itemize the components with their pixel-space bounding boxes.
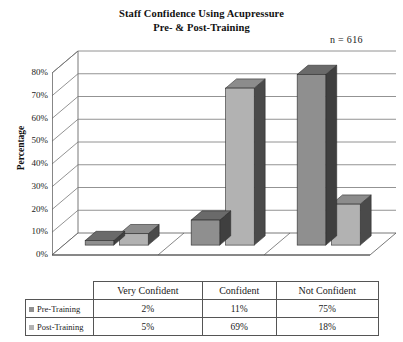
legend-item-post-training: Post-Training [26,318,94,336]
table-cell-pre-not-confident: 75% [276,300,378,318]
chart-title-line-2: Pre- & Post-Training [0,21,403,35]
y-axis-tick-label: 60% [18,113,48,123]
y-axis-tick-label: 10% [18,226,48,236]
table-header-cell-0: Very Confident [94,282,203,300]
table-cell-pre-confident: 11% [202,300,276,318]
chart-title-line-1: Staff Confidence Using Acupressure [0,7,403,21]
table-row: Pre-Training 2% 11% 75% [26,300,379,318]
table-header-cell-2: Not Confident [276,282,378,300]
y-axis-tick-label: 40% [18,158,48,168]
legend-label-pre-training: Pre-Training [37,304,80,314]
table-cell-post-confident: 69% [202,318,276,336]
y-axis-tick-label: 30% [18,181,48,191]
bar-post-training-not-confident [332,195,372,245]
y-axis-tick-label: 20% [18,204,48,214]
y-axis-tick-label: 50% [18,135,48,145]
legend-item-pre-training: Pre-Training [26,300,94,318]
bar-pre-training-confident [191,211,231,245]
bar-pre-training-not-confident [297,65,337,245]
sample-size-annotation: n = 616 [330,34,363,45]
legend-swatch-icon [29,307,34,312]
table-header-cell-1: Confident [202,282,276,300]
table-corner-cell [26,282,94,300]
legend-label-post-training: Post-Training [37,322,83,332]
table-row: Post-Training 5% 69% 18% [26,318,379,336]
plot-svg [52,45,400,283]
table-cell-post-not-confident: 18% [276,318,378,336]
y-axis-tick-label: 70% [18,90,48,100]
chart-title: Staff Confidence Using Acupressure Pre- … [0,7,403,34]
data-table: Very Confident Confident Not Confident P… [25,281,379,336]
bar-post-training-confident [226,79,266,245]
table-cell-pre-very-confident: 2% [94,300,203,318]
plot-area: 0%10%20%30%40%50%60%70%80% [52,45,400,283]
table-header-row: Very Confident Confident Not Confident [26,282,379,300]
legend-swatch-icon [29,325,34,330]
table-cell-post-very-confident: 5% [94,318,203,336]
chart-figure: Staff Confidence Using Acupressure Pre- … [0,0,403,342]
y-axis-tick-label: 80% [18,67,48,77]
y-axis-tick-label: 0% [18,249,48,259]
